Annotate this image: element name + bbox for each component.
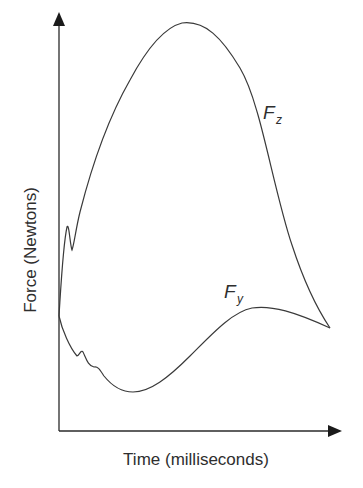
y-axis-arrow-icon xyxy=(53,12,65,26)
x-axis-label: Time (milliseconds) xyxy=(123,450,269,469)
force-time-diagram: Force (Newtons) Time (milliseconds) F z … xyxy=(0,0,363,488)
y-axis-label: Force (Newtons) xyxy=(21,187,40,313)
fz-label-sub: z xyxy=(275,113,282,127)
fy-label-sub: y xyxy=(236,292,244,306)
fz-label-main: F xyxy=(263,102,276,123)
fy-curve xyxy=(59,307,330,392)
fz-curve xyxy=(59,23,330,328)
x-axis-arrow-icon xyxy=(328,425,342,437)
fz-label: F z xyxy=(263,102,282,127)
fy-label-main: F xyxy=(224,281,237,302)
fy-label: F y xyxy=(224,281,244,306)
